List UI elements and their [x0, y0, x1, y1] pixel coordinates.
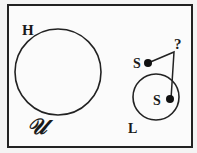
- point-s-outside-dot: [144, 59, 152, 67]
- set-h-label: H: [22, 22, 34, 38]
- set-diagram: H 𝒰 L ? S S: [0, 0, 197, 153]
- point-s-inside-label: S: [153, 93, 161, 108]
- question-mark-label: ?: [174, 36, 182, 52]
- set-l-label: L: [128, 121, 137, 136]
- point-s-inside-dot: [166, 95, 174, 103]
- point-s-outside-label: S: [133, 56, 141, 71]
- diagram-canvas: H 𝒰 L ? S S: [0, 0, 197, 153]
